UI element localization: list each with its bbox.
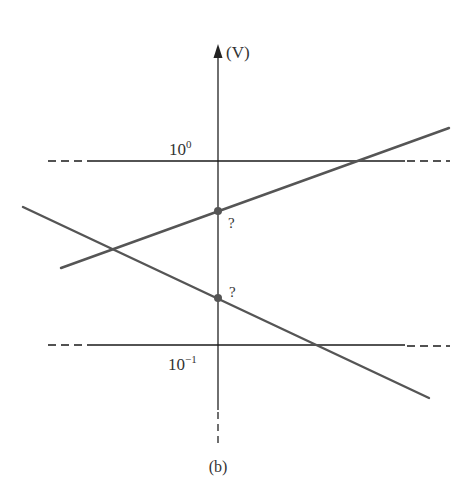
upper-level-exponent: 0 <box>186 138 192 150</box>
figure-caption: (b) <box>209 458 228 476</box>
lower-level-base: 10 <box>168 355 185 374</box>
lower-reference-line: 10−1 <box>48 345 450 374</box>
y-axis-unit-label: (V) <box>226 43 250 62</box>
lower-intercept-dot <box>214 294 222 302</box>
ascending-line <box>61 128 449 268</box>
lower-level-label: 10−1 <box>168 353 197 374</box>
upper-level-label: 100 <box>169 138 192 159</box>
upper-level-base: 10 <box>169 140 186 159</box>
voltage-log-diagram: (V) 100 10−1 ? ? (b) <box>0 0 476 502</box>
upper-intercept-label: ? <box>228 215 235 231</box>
vertical-axis: (V) <box>214 43 250 444</box>
upper-intercept-dot <box>214 207 222 215</box>
arrow-up-icon <box>214 44 223 58</box>
lower-intercept-label: ? <box>229 284 236 300</box>
lower-level-exponent: −1 <box>185 353 197 365</box>
descending-line <box>23 207 429 398</box>
